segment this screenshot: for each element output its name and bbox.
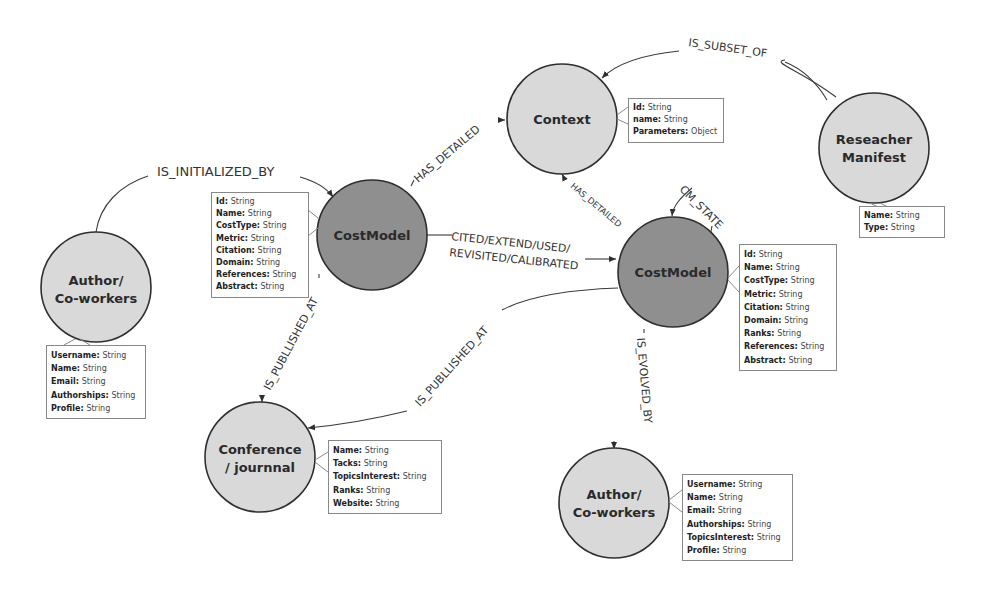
prop-row: Profile: String xyxy=(687,544,788,557)
prop-row: Domain: String xyxy=(744,314,832,327)
prop-row: References: String xyxy=(216,269,304,281)
prop-row: Website: String xyxy=(333,497,437,510)
label-is-subset-of: IS_SUBSET_OF xyxy=(688,36,768,60)
label-is-initialized-by: IS_INITIALIZED_BY xyxy=(157,164,275,179)
prop-row: Parameters: Object xyxy=(633,126,719,138)
prop-row: Abstract: String xyxy=(744,354,832,367)
props-researcher-manifest: Name: String Type: String xyxy=(859,206,945,238)
prop-row: Metric: String xyxy=(216,233,304,245)
prop-row: Tacks: String xyxy=(333,457,437,470)
node-costmodel-1[interactable]: CostModel xyxy=(317,180,427,290)
label-has-detailed-1: HAS_DETAILED xyxy=(412,123,483,186)
edge-is-subset-of-a xyxy=(785,62,827,100)
svg-text:CostModel: CostModel xyxy=(334,228,411,243)
node-costmodel-2[interactable]: CostModel xyxy=(618,217,728,327)
prop-row: Name: String xyxy=(744,261,832,274)
svg-text:Reseacher: Reseacher xyxy=(836,132,913,147)
prop-row: Type: String xyxy=(864,222,940,234)
prop-row: References: String xyxy=(744,340,832,353)
props-context: Id: String name: String Parameters: Obje… xyxy=(628,98,724,143)
prop-row: Email: String xyxy=(687,504,788,517)
prop-row: Id: String xyxy=(633,102,719,114)
prop-row: Username: String xyxy=(51,349,141,362)
prop-row: TopicsInterest: String xyxy=(687,531,788,544)
label-has-detailed-2: HAS_DETAILED xyxy=(569,181,624,230)
edge-is-initialized-by-a xyxy=(96,176,148,232)
prop-row: Name: String xyxy=(864,210,940,222)
prop-row: Name: String xyxy=(51,362,141,375)
label-is-published-at-1: IS_PUBLLISHED_AT xyxy=(261,295,321,392)
prop-row: Name: String xyxy=(216,208,304,220)
prop-row: Email: String xyxy=(51,375,141,388)
node-researcher-manifest[interactable]: Reseacher Manifest xyxy=(819,93,929,203)
prop-row: Metric: String xyxy=(744,288,832,301)
svg-text:Co-workers: Co-workers xyxy=(573,505,656,520)
prop-row: Username: String xyxy=(687,478,788,491)
callout-author-2 xyxy=(669,490,682,512)
node-author-2[interactable]: Author/ Co-workers xyxy=(559,448,669,558)
prop-row: Name: String xyxy=(333,444,437,457)
prop-row: name: String xyxy=(633,114,719,126)
prop-row: Authorships: String xyxy=(51,389,141,402)
svg-text:Author/: Author/ xyxy=(69,273,124,288)
svg-text:CostModel: CostModel xyxy=(635,265,712,280)
prop-row: Id: String xyxy=(216,196,304,208)
prop-row: CostType: String xyxy=(744,274,832,287)
svg-text:Author/: Author/ xyxy=(587,487,642,502)
props-author-1: Username: String Name: String Email: Str… xyxy=(46,345,146,419)
edge-has-detailed-1 xyxy=(411,180,414,186)
prop-row: Domain: String xyxy=(216,257,304,269)
prop-row: Id: String xyxy=(744,248,832,261)
prop-row: Profile: String xyxy=(51,402,141,415)
prop-row: Ranks: String xyxy=(744,327,832,340)
callout-costmodel-2 xyxy=(728,266,739,292)
callout-context xyxy=(617,107,628,124)
props-author-2: Username: String Name: String Email: Str… xyxy=(682,474,793,561)
node-conference[interactable]: Conference / journnal xyxy=(205,402,315,512)
props-costmodel-2: Id: String Name: String CostType: String… xyxy=(739,244,837,371)
label-is-evolved-by: IS_EVOLVED_BY xyxy=(634,337,654,424)
props-costmodel-1: Id: String Name: String CostType: String… xyxy=(211,192,309,298)
svg-text:Co-workers: Co-workers xyxy=(55,291,138,306)
label-is-published-at-2: IS_PUBLLISHED_AT xyxy=(413,324,492,409)
prop-row: Abstract: String xyxy=(216,281,304,293)
props-conference: Name: String Tacks: String TopicsInteres… xyxy=(328,440,442,514)
prop-row: Name: String xyxy=(687,491,788,504)
prop-row: CostType: String xyxy=(216,220,304,232)
edge-is-published-at-2-a xyxy=(502,288,618,310)
prop-row: Citation: String xyxy=(744,301,832,314)
svg-text:/ journnal: / journnal xyxy=(225,460,295,475)
graph-diagram: IS_SUBSET_OF IS_INITIALIZED_BY HAS_DETAI… xyxy=(0,0,986,596)
svg-text:Context: Context xyxy=(533,112,590,127)
prop-row: Citation: String xyxy=(216,245,304,257)
node-context[interactable]: Context xyxy=(507,64,617,174)
edge-is-subset-of-b xyxy=(602,51,679,78)
svg-text:Conference: Conference xyxy=(218,442,301,457)
edge-is-subset-of xyxy=(781,60,836,97)
prop-row: TopicsInterest: String xyxy=(333,470,437,483)
node-author-1[interactable]: Author/ Co-workers xyxy=(41,232,151,342)
prop-row: Authorships: String xyxy=(687,518,788,531)
prop-row: Ranks: String xyxy=(333,484,437,497)
callout-conference xyxy=(315,452,328,472)
edge-is-published-at-2-b xyxy=(308,411,407,428)
svg-text:Manifest: Manifest xyxy=(842,150,906,165)
